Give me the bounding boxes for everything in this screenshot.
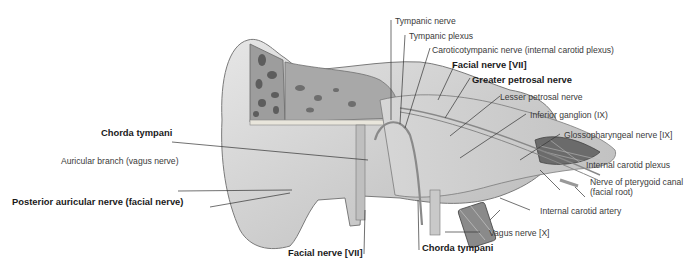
label-tympanic-plexus: Tympanic plexus xyxy=(409,31,473,41)
label-facial-nerve-top: Facial nerve [VII] xyxy=(452,60,527,70)
label-lesser-petrosal-nerve: Lesser petrosal nerve xyxy=(500,92,583,102)
label-tympanic-nerve: Tympanic nerve xyxy=(395,16,456,26)
label-glossopharyngeal-nerve: Glossopharyngeal nerve [IX] xyxy=(564,130,672,140)
label-posterior-auricular-nerve: Posterior auricular nerve (facial nerve) xyxy=(12,197,183,207)
anatomy-figure: Tympanic nerve Tympanic plexus Caroticot… xyxy=(0,0,695,271)
label-nerve-pterygoid-canal-root: (facial root) xyxy=(590,187,633,197)
label-nerve-pterygoid-canal: Nerve of pterygoid canal xyxy=(590,177,683,187)
vagus-trunk xyxy=(430,190,440,235)
label-chorda-tympani-left: Chorda tympani xyxy=(101,128,172,138)
label-inferior-ganglion: Inferior ganglion (IX) xyxy=(530,110,608,120)
label-facial-nerve-bottom: Facial nerve [VII] xyxy=(288,248,363,258)
label-vagus-nerve: Vagus nerve [X] xyxy=(489,228,550,238)
label-internal-carotid-artery: Internal carotid artery xyxy=(540,206,621,216)
bone-layer xyxy=(250,120,395,125)
label-internal-carotid-plexus: Internal carotid plexus xyxy=(586,160,670,170)
facial-nerve-trunk xyxy=(356,125,365,220)
label-caroticotympanic-nerve: Caroticotympanic nerve (internal carotid… xyxy=(432,45,614,55)
label-auricular-branch: Auricular branch (vagus nerve) xyxy=(61,156,179,166)
pterygoid-canal-nerve xyxy=(560,180,578,186)
label-greater-petrosal-nerve: Greater petrosal nerve xyxy=(472,75,572,85)
label-chorda-tympani-bottom: Chorda tympani xyxy=(422,243,493,253)
